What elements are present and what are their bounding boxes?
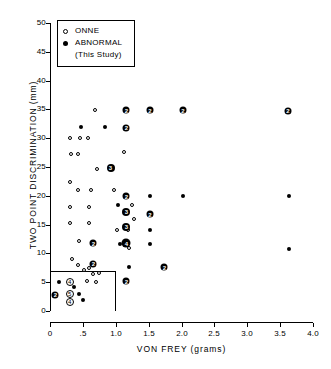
data-point-normal <box>95 167 99 171</box>
x-tick <box>116 323 117 327</box>
filled-circle-icon <box>63 41 75 46</box>
x-tick <box>50 323 51 327</box>
x-tick-label: 3.5 <box>267 330 293 338</box>
data-point-normal <box>127 246 131 250</box>
data-point-normal <box>69 152 73 156</box>
data-point-abnormal <box>287 247 291 251</box>
data-point-normal <box>89 188 93 192</box>
data-point-normal <box>115 228 119 232</box>
data-point-abnormal <box>116 203 120 207</box>
reference-range-box <box>50 271 116 311</box>
y-tick <box>46 253 50 254</box>
data-point-abnormal-group: 4 <box>122 239 131 248</box>
data-point-normal <box>78 136 82 140</box>
data-point-abnormal <box>103 125 107 129</box>
data-point-normal <box>76 188 80 192</box>
y-tick <box>46 196 50 197</box>
x-tick-label: 2.0 <box>169 330 195 338</box>
data-point-normal <box>112 188 116 192</box>
legend-row-normal: ONNE <box>63 25 129 37</box>
data-point-normal <box>77 239 81 243</box>
x-tick-label: 1.0 <box>103 330 129 338</box>
data-point-normal <box>132 217 136 221</box>
data-point-abnormal-group: 3 <box>122 223 130 231</box>
data-point-abnormal-group: 2 <box>123 124 130 131</box>
data-point-normal <box>126 228 130 232</box>
legend: ONNE ABNORMAL (This Study) <box>57 20 135 67</box>
x-tick-label: 1.5 <box>136 330 162 338</box>
x-tick <box>280 323 281 327</box>
y-tick <box>46 138 50 139</box>
data-point-abnormal <box>118 242 122 246</box>
legend-label-normal: ONNE <box>75 25 99 37</box>
data-point-normal <box>87 266 91 270</box>
x-tick-label: 4.0 <box>300 330 326 338</box>
data-point-normal <box>87 205 91 209</box>
y-tick <box>46 167 50 168</box>
data-point-normal <box>68 180 72 184</box>
y-axis-line <box>50 23 51 311</box>
y-tick <box>46 109 50 110</box>
data-point-normal <box>87 221 91 225</box>
x-tick <box>313 323 314 327</box>
data-point-normal <box>122 150 126 154</box>
data-point-normal <box>68 205 72 209</box>
x-tick <box>214 323 215 327</box>
x-tick-label: 3.0 <box>234 330 260 338</box>
data-point-abnormal-group: 2 <box>146 107 153 114</box>
y-tick <box>46 311 50 312</box>
data-point-abnormal-group: 2 <box>123 107 130 114</box>
data-point-abnormal <box>79 125 83 129</box>
x-tick-label: 0 <box>37 330 63 338</box>
x-tick <box>247 323 248 327</box>
scatter-plot-figure: 05101520253035404550 TWO POINT DISCRIMIN… <box>0 0 331 369</box>
data-point-normal <box>70 257 74 261</box>
data-point-abnormal-group: 2 <box>90 240 97 247</box>
legend-row-abnormal: ABNORMAL <box>63 37 129 49</box>
data-point-normal <box>130 203 134 207</box>
data-point-normal <box>68 136 72 140</box>
y-tick <box>46 225 50 226</box>
data-point-normal <box>76 263 80 267</box>
y-axis-title: TWO POINT DISCRIMINATION (mm) <box>28 50 38 280</box>
data-point-abnormal-group: 2 <box>123 193 130 200</box>
x-tick-label: .5 <box>70 330 96 338</box>
data-point-abnormal <box>181 194 185 198</box>
x-tick <box>149 323 150 327</box>
data-point-abnormal-group: 2 <box>123 278 130 285</box>
data-point-abnormal-group: 3 <box>107 164 115 172</box>
x-tick <box>83 323 84 327</box>
data-point-abnormal-group: 2 <box>90 260 97 267</box>
data-point-normal <box>86 136 90 140</box>
data-point-abnormal <box>287 194 291 198</box>
y-tick <box>46 23 50 24</box>
x-axis-title: VON FREY (grams) <box>50 344 313 354</box>
x-tick-label: 2.5 <box>201 330 227 338</box>
x-tick <box>182 323 183 327</box>
legend-sublabel: (This Study) <box>63 49 129 61</box>
data-point-abnormal-group: 2 <box>179 107 186 114</box>
y-tick-label: 50 <box>26 19 46 27</box>
data-point-abnormal-group: 3 <box>122 208 130 216</box>
y-tick <box>46 81 50 82</box>
data-point-abnormal-group: 2 <box>161 264 168 271</box>
legend-label-abnormal: ABNORMAL <box>75 37 122 49</box>
data-point-normal <box>68 221 72 225</box>
data-point-abnormal <box>127 265 131 269</box>
data-point-normal <box>93 108 97 112</box>
open-circle-icon <box>63 29 75 34</box>
y-tick-label: 0 <box>26 307 46 315</box>
data-point-abnormal-group: 2 <box>146 211 153 218</box>
data-point-normal <box>76 152 80 156</box>
data-point-abnormal <box>148 242 152 246</box>
y-tick <box>46 52 50 53</box>
data-point-abnormal-group: 2 <box>285 107 292 114</box>
data-point-abnormal <box>148 194 152 198</box>
data-point-abnormal <box>148 228 152 232</box>
